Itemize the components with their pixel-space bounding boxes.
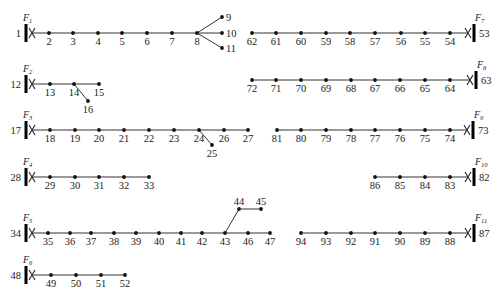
node-label: 14: [69, 87, 80, 98]
node-dot: [398, 128, 402, 132]
node-label: 5: [119, 36, 124, 47]
node-dot: [399, 31, 403, 35]
node-label: 68: [346, 83, 357, 94]
feeder-subscript: 5: [29, 217, 33, 224]
node-dot: [349, 78, 353, 82]
node-label: 25: [207, 148, 218, 159]
bus-label: 28: [11, 172, 22, 183]
bus-label: 82: [479, 172, 490, 183]
node-dot: [423, 231, 427, 235]
node-dot: [324, 128, 328, 132]
node-dot: [448, 175, 452, 179]
node-dot: [373, 31, 377, 35]
node-label: 50: [71, 278, 82, 289]
node-label: 78: [346, 133, 357, 144]
node-dot: [274, 31, 278, 35]
node-label: 86: [370, 180, 381, 191]
feeder-label: F5: [22, 212, 33, 224]
node-label: 94: [296, 236, 307, 247]
node-label: 20: [94, 133, 105, 144]
feeder-f7: F753626160595857565554: [247, 12, 490, 47]
node-dot: [222, 128, 226, 132]
node-label: 84: [420, 180, 431, 191]
node-dot: [423, 78, 427, 82]
node-dot: [448, 78, 452, 82]
node-label: 46: [243, 236, 254, 247]
bus-label: 17: [11, 125, 22, 136]
node-dot: [48, 128, 52, 132]
node-dot: [250, 78, 254, 82]
node-dot: [112, 231, 116, 235]
node-dot: [324, 231, 328, 235]
node-dot: [259, 207, 263, 211]
bus-label: 12: [11, 79, 22, 90]
node-label: 2: [46, 36, 51, 47]
node-dot: [299, 78, 303, 82]
node-dot: [448, 31, 452, 35]
node-dot: [157, 231, 161, 235]
node-label: 88: [445, 236, 456, 247]
feeder-f10: F108286858483: [370, 156, 490, 191]
node-dot: [398, 231, 402, 235]
node-label: 8: [194, 36, 199, 47]
node-label: 23: [169, 133, 180, 144]
node-label: 16: [83, 104, 94, 115]
node-label: 10: [226, 28, 237, 39]
node-dot: [349, 128, 353, 132]
node-label: 32: [119, 180, 130, 191]
node-label: 22: [144, 133, 155, 144]
node-dot: [195, 31, 199, 35]
node-label: 66: [395, 83, 406, 94]
feeder-subscript: 3: [28, 114, 33, 121]
node-dot: [373, 128, 377, 132]
node-label: 54: [445, 36, 456, 47]
node-dot: [246, 231, 250, 235]
node-label: 51: [96, 278, 107, 289]
node-dot: [274, 78, 278, 82]
node-label: 64: [445, 83, 456, 94]
node-label: 76: [395, 133, 406, 144]
node-dot: [448, 231, 452, 235]
node-dot: [97, 128, 101, 132]
node-dot: [423, 175, 427, 179]
node-label: 35: [43, 236, 54, 247]
node-label: 77: [370, 133, 381, 144]
node-label: 62: [247, 36, 258, 47]
node-dot: [398, 175, 402, 179]
node-dot: [170, 31, 174, 35]
feeder-subscript: 7: [481, 17, 485, 24]
node-label: 61: [271, 36, 282, 47]
node-label: 70: [296, 83, 307, 94]
node-label: 9: [226, 12, 231, 23]
node-dot: [47, 31, 51, 35]
node-label: 4: [95, 36, 101, 47]
node-dot: [349, 231, 353, 235]
bus-label: 48: [11, 270, 22, 281]
bus-label: 1: [16, 28, 21, 39]
node-label: 33: [144, 180, 155, 191]
node-dot: [49, 273, 53, 277]
node-label: 91: [370, 236, 381, 247]
feeder-f5: F53444453536373839404142434647: [11, 196, 276, 247]
feeder-f3: F31725181920212223242627: [11, 109, 254, 159]
node-label: 47: [265, 236, 276, 247]
node-dot: [147, 175, 151, 179]
node-label: 72: [247, 83, 258, 94]
node-label: 90: [395, 236, 406, 247]
node-label: 80: [296, 133, 307, 144]
node-dot: [348, 31, 352, 35]
node-dot: [48, 175, 52, 179]
node-label: 59: [321, 36, 332, 47]
node-label: 24: [194, 133, 205, 144]
node-dot: [246, 128, 250, 132]
node-dot: [123, 273, 127, 277]
feeder-label: F10: [474, 156, 488, 168]
feeder-label: F6: [22, 254, 33, 266]
node-dot: [122, 175, 126, 179]
node-label: 6: [144, 36, 149, 47]
branch-line: [197, 17, 222, 33]
feeder-f2: F21216131415: [11, 63, 105, 115]
node-dot: [134, 231, 138, 235]
feeder-f6: F64849505152: [11, 254, 131, 289]
node-label: 58: [345, 36, 356, 47]
